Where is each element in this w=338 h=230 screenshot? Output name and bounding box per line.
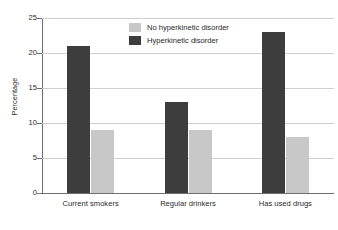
gridline: [42, 18, 334, 19]
y-tick-label: 0: [13, 189, 37, 197]
bar-hyperkinetic-disorder: [67, 46, 90, 193]
legend-label-hyperkinetic-disorder: Hyperkinetic disorder: [147, 37, 218, 45]
bar-chart: Percentage 0510152025 Current smokersReg…: [0, 0, 338, 230]
y-tick-label: 10: [13, 119, 37, 127]
y-tick-label: 20: [13, 49, 37, 57]
bar-hyperkinetic-disorder: [262, 32, 285, 193]
legend-item-hyperkinetic-disorder: Hyperkinetic disorder: [129, 34, 229, 47]
y-tick-label: 5: [13, 154, 37, 162]
legend-label-no-hyperkinetic-disorder: No hyperkinetic disorder: [147, 24, 229, 32]
legend-item-no-hyperkinetic-disorder: No hyperkinetic disorder: [129, 21, 229, 34]
legend-swatch-icon-dark: [129, 36, 141, 45]
y-axis-title: Percentage: [8, 0, 22, 193]
y-tick-label: 25: [13, 14, 37, 22]
bar-no-hyperkinetic-disorder: [189, 130, 212, 193]
bar-no-hyperkinetic-disorder: [286, 137, 309, 193]
bar-hyperkinetic-disorder: [165, 102, 188, 193]
legend: No hyperkinetic disorder Hyperkinetic di…: [129, 21, 229, 47]
legend-swatch-icon-light: [129, 23, 141, 32]
x-axis-line: [42, 193, 334, 194]
x-tick-label: Has used drugs: [259, 200, 312, 208]
y-tick-label: 15: [13, 84, 37, 92]
x-tick-label: Regular drinkers: [160, 200, 216, 208]
x-tick-label: Current smokers: [63, 200, 119, 208]
bar-no-hyperkinetic-disorder: [91, 130, 114, 193]
